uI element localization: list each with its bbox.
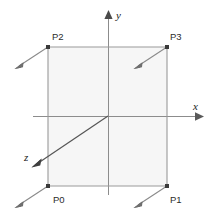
corner-label-p3: P3: [170, 31, 182, 42]
corner-dot-p1: [165, 184, 169, 188]
corner-label-p0: P0: [53, 194, 65, 205]
x-axis-arrowhead: [195, 112, 204, 121]
corner-dot-p2: [46, 45, 50, 49]
quad-patch-diagram: x y z P2 P3 P0 P1: [0, 0, 209, 222]
corner-dot-p3: [165, 45, 169, 49]
corner-label-p1: P1: [170, 194, 182, 205]
normal-vector-p1: [134, 186, 168, 208]
y-axis-arrowhead: [104, 10, 112, 19]
x-axis-label: x: [192, 100, 198, 112]
corner-label-p2: P2: [52, 31, 64, 42]
diagram-canvas: x y z P2 P3 P0 P1: [0, 0, 209, 222]
corner-dot-p0: [46, 184, 50, 188]
normal-vector-p2: [15, 47, 49, 69]
normal-vector-p0: [15, 186, 49, 208]
z-axis-label: z: [23, 151, 29, 163]
y-axis-label: y: [115, 9, 121, 21]
